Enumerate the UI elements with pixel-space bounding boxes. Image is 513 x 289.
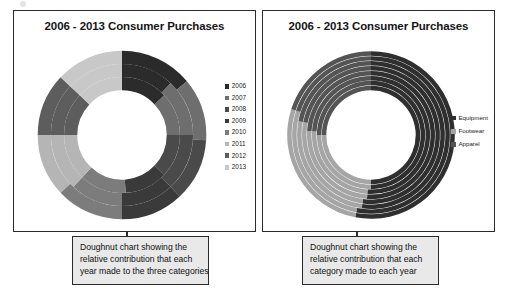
legend-item-label: Apparel: [458, 141, 479, 147]
legend-right: EquipmentFootwearApparel: [451, 115, 488, 148]
legend-item-label: 2008: [232, 106, 246, 112]
callout-right-line-2: relative contribution that each: [310, 254, 431, 266]
year-swatch-icon: [225, 153, 230, 158]
legend-item-2013[interactable]: 2013: [225, 164, 246, 170]
legend-item-2012[interactable]: 2012: [225, 153, 246, 159]
screenshot-stage: 2006 - 2013 Consumer Purchases 200620072…: [0, 0, 513, 289]
callout-left-line-1: Doughnut chart showing the: [80, 242, 201, 254]
doughnut-right-svg: [285, 49, 457, 221]
legend-item-2010[interactable]: 2010: [225, 129, 246, 135]
callout-left: Doughnut chart showing the relative cont…: [72, 236, 209, 285]
legend-item-label: 2007: [232, 95, 246, 101]
doughnut-slice[interactable]: [371, 86, 420, 184]
legend-item-2009[interactable]: 2009: [225, 118, 246, 124]
scan-speck-icon: [20, 1, 26, 7]
doughnut-chart-right: [285, 49, 457, 221]
legend-item-label: 2012: [232, 153, 246, 159]
legend-item-label: 2013: [232, 164, 246, 170]
doughnut-left-svg: [36, 49, 208, 221]
doughnut-slice[interactable]: [322, 135, 371, 184]
doughnut-slice[interactable]: [322, 86, 371, 135]
doughnut-chart-left: [36, 49, 208, 221]
legend-item-label: 2011: [232, 141, 246, 147]
callout-left-line-2: relative contribution that each: [80, 254, 201, 266]
legend-item-2008[interactable]: 2008: [225, 106, 246, 112]
year-swatch-icon: [225, 96, 230, 101]
callout-left-line-3: year made to the three categories: [80, 266, 201, 278]
legend-item-label: 2009: [232, 118, 246, 124]
category-swatch-icon: [451, 116, 456, 121]
legend-item-label: 2010: [232, 129, 246, 135]
callout-right-line-3: category made to each year: [310, 266, 431, 278]
year-swatch-icon: [225, 130, 230, 135]
year-swatch-icon: [225, 107, 230, 112]
legend-item-2007[interactable]: 2007: [225, 95, 246, 101]
legend-item-apparel[interactable]: Apparel: [451, 141, 488, 147]
category-swatch-icon: [451, 142, 456, 147]
callout-right: Doughnut chart showing the relative cont…: [302, 236, 439, 285]
legend-item-2011[interactable]: 2011: [225, 141, 246, 147]
year-swatch-icon: [225, 142, 230, 147]
year-swatch-icon: [225, 165, 230, 170]
year-swatch-icon: [225, 84, 230, 89]
legend-left: 20062007200820092010201120122013: [225, 83, 246, 171]
chart-title-right: 2006 - 2013 Consumer Purchases: [263, 20, 494, 32]
chart-panel-right: 2006 - 2013 Consumer Purchases Equipment…: [262, 10, 495, 232]
legend-item-label: Equipment: [458, 115, 488, 121]
callout-right-line-1: Doughnut chart showing the: [310, 242, 431, 254]
legend-item-footwear[interactable]: Footwear: [451, 128, 488, 134]
legend-item-label: Footwear: [458, 128, 484, 134]
chart-panel-left: 2006 - 2013 Consumer Purchases 200620072…: [13, 10, 256, 232]
chart-title-left: 2006 - 2013 Consumer Purchases: [14, 20, 255, 32]
legend-item-label: 2006: [232, 83, 246, 89]
year-swatch-icon: [225, 119, 230, 124]
category-swatch-icon: [451, 129, 456, 134]
legend-item-equipment[interactable]: Equipment: [451, 115, 488, 121]
legend-item-2006[interactable]: 2006: [225, 83, 246, 89]
